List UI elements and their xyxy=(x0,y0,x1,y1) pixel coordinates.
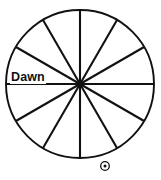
dawn-label: Dawn xyxy=(10,71,46,84)
sun-icon xyxy=(101,162,110,171)
sector-circle-diagram xyxy=(0,0,161,180)
figure-container: Dawn xyxy=(0,0,161,180)
